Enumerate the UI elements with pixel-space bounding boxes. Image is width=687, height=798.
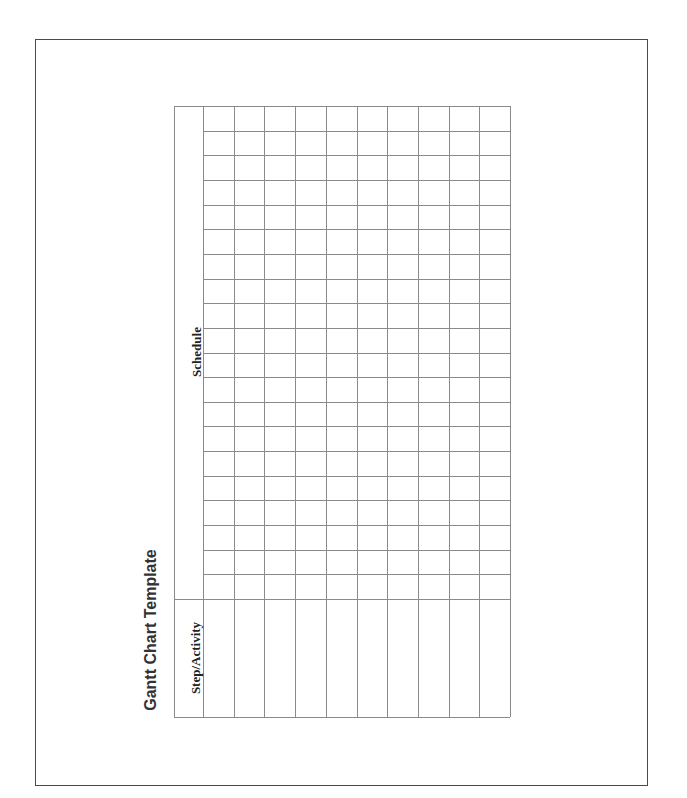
schedule-cell[interactable] (234, 131, 265, 156)
schedule-cell[interactable] (203, 426, 234, 451)
schedule-cell[interactable] (387, 377, 418, 402)
schedule-cell[interactable] (357, 328, 388, 353)
schedule-cell[interactable] (449, 328, 480, 353)
schedule-cell[interactable] (387, 106, 418, 131)
schedule-cell[interactable] (387, 205, 418, 230)
schedule-cell[interactable] (234, 377, 265, 402)
schedule-cell[interactable] (295, 106, 326, 131)
schedule-cell[interactable] (264, 180, 295, 205)
schedule-cell[interactable] (449, 525, 480, 550)
schedule-cell[interactable] (326, 451, 357, 476)
schedule-cell[interactable] (418, 476, 449, 501)
schedule-cell[interactable] (387, 574, 418, 599)
schedule-cell[interactable] (264, 574, 295, 599)
schedule-cell[interactable] (479, 131, 510, 156)
schedule-cell[interactable] (326, 180, 357, 205)
schedule-cell[interactable] (479, 574, 510, 599)
schedule-cell[interactable] (387, 402, 418, 427)
schedule-cell[interactable] (234, 402, 265, 427)
schedule-cell[interactable] (203, 500, 234, 525)
schedule-cell[interactable] (357, 254, 388, 279)
schedule-cell[interactable] (295, 451, 326, 476)
schedule-cell[interactable] (234, 155, 265, 180)
schedule-cell[interactable] (357, 131, 388, 156)
schedule-cell[interactable] (203, 476, 234, 501)
schedule-cell[interactable] (479, 254, 510, 279)
schedule-cell[interactable] (418, 328, 449, 353)
schedule-cell[interactable] (234, 451, 265, 476)
schedule-cell[interactable] (234, 476, 265, 501)
schedule-cell[interactable] (357, 303, 388, 328)
schedule-cell[interactable] (418, 279, 449, 304)
schedule-cell[interactable] (479, 106, 510, 131)
schedule-cell[interactable] (387, 279, 418, 304)
schedule-cell[interactable] (479, 180, 510, 205)
schedule-cell[interactable] (387, 525, 418, 550)
schedule-cell[interactable] (418, 303, 449, 328)
schedule-cell[interactable] (479, 402, 510, 427)
schedule-cell[interactable] (295, 402, 326, 427)
activity-cell[interactable] (357, 599, 388, 717)
schedule-cell[interactable] (264, 106, 295, 131)
schedule-cell[interactable] (295, 131, 326, 156)
schedule-cell[interactable] (264, 279, 295, 304)
schedule-cell[interactable] (449, 229, 480, 254)
schedule-cell[interactable] (326, 106, 357, 131)
schedule-cell[interactable] (479, 426, 510, 451)
schedule-cell[interactable] (264, 402, 295, 427)
schedule-cell[interactable] (203, 131, 234, 156)
schedule-cell[interactable] (449, 254, 480, 279)
schedule-cell[interactable] (203, 574, 234, 599)
schedule-cell[interactable] (203, 328, 234, 353)
schedule-cell[interactable] (264, 500, 295, 525)
schedule-cell[interactable] (326, 328, 357, 353)
schedule-cell[interactable] (449, 377, 480, 402)
schedule-cell[interactable] (264, 131, 295, 156)
schedule-cell[interactable] (357, 205, 388, 230)
schedule-cell[interactable] (479, 229, 510, 254)
schedule-cell[interactable] (479, 377, 510, 402)
schedule-cell[interactable] (203, 353, 234, 378)
activity-cell[interactable] (479, 599, 510, 717)
schedule-cell[interactable] (387, 254, 418, 279)
schedule-cell[interactable] (326, 303, 357, 328)
schedule-cell[interactable] (295, 525, 326, 550)
schedule-cell[interactable] (418, 229, 449, 254)
schedule-cell[interactable] (479, 328, 510, 353)
schedule-cell[interactable] (357, 451, 388, 476)
schedule-cell[interactable] (357, 106, 388, 131)
schedule-cell[interactable] (295, 205, 326, 230)
schedule-cell[interactable] (418, 131, 449, 156)
schedule-cell[interactable] (264, 353, 295, 378)
schedule-cell[interactable] (418, 426, 449, 451)
schedule-cell[interactable] (264, 476, 295, 501)
schedule-cell[interactable] (264, 155, 295, 180)
schedule-cell[interactable] (479, 205, 510, 230)
schedule-cell[interactable] (295, 254, 326, 279)
schedule-cell[interactable] (479, 550, 510, 575)
schedule-cell[interactable] (449, 451, 480, 476)
schedule-cell[interactable] (203, 525, 234, 550)
schedule-cell[interactable] (387, 476, 418, 501)
schedule-cell[interactable] (326, 205, 357, 230)
schedule-cell[interactable] (203, 279, 234, 304)
schedule-cell[interactable] (203, 303, 234, 328)
schedule-cell[interactable] (387, 180, 418, 205)
schedule-cell[interactable] (357, 476, 388, 501)
schedule-cell[interactable] (387, 550, 418, 575)
schedule-cell[interactable] (234, 426, 265, 451)
schedule-cell[interactable] (418, 180, 449, 205)
schedule-cell[interactable] (387, 328, 418, 353)
schedule-cell[interactable] (449, 574, 480, 599)
activity-cell[interactable] (449, 599, 480, 717)
schedule-cell[interactable] (357, 377, 388, 402)
schedule-cell[interactable] (295, 353, 326, 378)
schedule-cell[interactable] (418, 106, 449, 131)
schedule-cell[interactable] (203, 451, 234, 476)
schedule-cell[interactable] (295, 328, 326, 353)
schedule-cell[interactable] (449, 426, 480, 451)
schedule-cell[interactable] (449, 303, 480, 328)
schedule-cell[interactable] (479, 303, 510, 328)
schedule-cell[interactable] (326, 476, 357, 501)
schedule-cell[interactable] (234, 254, 265, 279)
